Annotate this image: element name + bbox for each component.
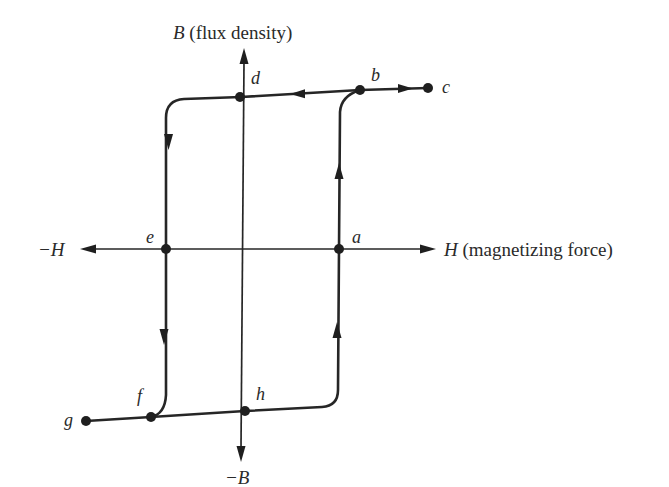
descending-branch <box>86 88 428 421</box>
arrow-up-ab-icon <box>335 163 344 179</box>
label-b: b <box>371 65 380 85</box>
point-h <box>240 406 250 416</box>
arrow-right-bc-icon <box>398 84 413 93</box>
label-g: g <box>64 410 73 430</box>
point-c <box>423 83 433 93</box>
point-d <box>235 92 245 102</box>
b-axis-label: B (flux density) <box>173 22 292 44</box>
point-e <box>161 244 171 254</box>
label-e: e <box>146 227 154 247</box>
ascending-branch <box>151 90 360 417</box>
point-f <box>146 412 156 422</box>
b-axis-down-arrow-icon <box>237 446 246 462</box>
b-axis-up-arrow-icon <box>240 48 249 64</box>
label-f: f <box>137 386 145 406</box>
neg-h-axis-label: −H <box>38 239 66 260</box>
arrow-left-bd-icon <box>290 89 305 98</box>
neg-b-axis-label: −B <box>225 467 250 487</box>
point-a <box>334 244 344 254</box>
h-axis-left-arrow-icon <box>80 245 96 254</box>
h-axis-label: H (magnetizing force) <box>443 239 613 261</box>
point-b <box>355 85 365 95</box>
point-g <box>81 416 91 426</box>
label-h: h <box>256 384 265 404</box>
arrow-up-ha-icon <box>333 322 342 338</box>
label-a: a <box>352 227 361 247</box>
b-axis-line <box>241 62 244 448</box>
label-d: d <box>251 68 261 88</box>
h-axis-right-arrow-icon <box>420 245 436 254</box>
hysteresis-diagram: B (flux density) −B −H H (magnetizing fo… <box>0 0 669 487</box>
label-c: c <box>442 77 450 97</box>
